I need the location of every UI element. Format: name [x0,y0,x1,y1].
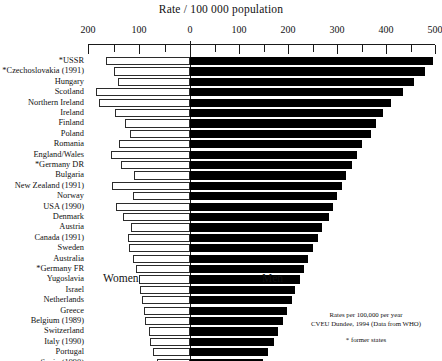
bar-women [116,203,190,211]
bar-men [190,119,376,127]
category-label: Italy (1990) [0,337,84,347]
source-note-line2: CVEU Dundee, 1994 (Data from WHO) [290,320,442,329]
category-label: England/Wales [0,150,84,160]
bar-men [190,171,346,179]
chart-row: Israel [0,285,442,295]
chart-row: Austria [0,222,442,232]
chart-row: Northern Ireland [0,98,442,108]
bar-women [150,338,190,346]
chart-row: Norway [0,191,442,201]
category-label: Ireland [0,108,84,118]
category-label: Bulgaria [0,170,84,180]
bar-men [190,203,333,211]
bars-plot-area: *USSR*Czechoslovakia (1991)HungaryScotla… [0,0,442,361]
bar-women [128,234,190,242]
chart-row: England/Wales [0,150,442,160]
chart-row: *Czechoslovakia (1991) [0,66,442,76]
category-label: *Czechoslovakia (1991) [0,66,84,76]
category-label: Norway [0,191,84,201]
bar-men [190,244,313,252]
category-label: Poland [0,129,84,139]
bar-men [190,317,283,325]
bar-men [190,88,403,96]
footnote-former-states: * former states [290,336,442,343]
bar-women [114,67,191,75]
category-label: *USSR [0,56,84,66]
bar-women [149,327,190,335]
women-series-label: Women [103,272,138,284]
bar-men [190,78,414,86]
category-label: Denmark [0,212,84,222]
bar-women [121,161,190,169]
chart-row: Denmark [0,212,442,222]
bar-women [112,182,190,190]
category-label: Portugal [0,347,84,357]
bar-women [115,109,190,117]
bar-women [131,223,190,231]
chart-row: Romania [0,139,442,149]
source-note: Rates per 100,000 per year CVEU Dundee, … [290,311,442,328]
bar-men [190,182,342,190]
bar-men [190,307,287,315]
cancer-mortality-rate-chart: Rate / 100 000 population 20010001002003… [0,0,442,361]
chart-row: Bulgaria [0,170,442,180]
category-label: Canada (1991) [0,233,84,243]
bar-women [118,78,190,86]
chart-row: Australia [0,254,442,264]
category-label: Israel [0,285,84,295]
chart-row: Netherlands [0,295,442,305]
chart-row: Spain (1990) [0,358,442,361]
category-label: Sweden [0,243,84,253]
bar-men [190,338,274,346]
bar-men [190,265,304,273]
bar-men [190,275,300,283]
chart-row: Hungary [0,77,442,87]
bar-men [190,223,322,231]
bar-men [190,327,278,335]
chart-row: Ireland [0,108,442,118]
bar-women [136,265,190,273]
bar-women [133,192,190,200]
category-label: Romania [0,139,84,149]
chart-row: Scotland [0,87,442,97]
category-label: Finland [0,118,84,128]
bar-women [119,140,190,148]
category-label: USA (1990) [0,202,84,212]
bar-women [142,296,190,304]
category-label: Greece [0,306,84,316]
chart-row: Finland [0,118,442,128]
category-label: New Zealand (1991) [0,181,84,191]
chart-row: Yugoslavia [0,274,442,284]
bar-women [129,244,190,252]
men-series-label: Men [262,272,283,284]
bar-women [153,348,190,356]
chart-row: *USSR [0,56,442,66]
bar-men [190,57,433,65]
bar-women [125,119,190,127]
bar-men [190,192,337,200]
bar-men [190,151,357,159]
category-label: *Germany FR [0,264,84,274]
category-label: Northern Ireland [0,98,84,108]
chart-row: Canada (1991) [0,233,442,243]
bar-men [190,99,391,107]
source-note-line1: Rates per 100,000 per year [290,311,442,320]
bar-men [190,161,352,169]
bar-women [130,130,190,138]
category-label: Australia [0,254,84,264]
bar-women [96,88,190,96]
bar-men [190,130,371,138]
chart-row: Portugal [0,347,442,357]
bar-women [140,286,190,294]
bar-men [190,109,383,117]
bar-men [190,213,329,221]
bar-women [133,255,190,263]
bar-men [190,255,308,263]
bar-men [190,296,292,304]
category-label: Spain (1990) [0,358,84,361]
category-label: Netherlands [0,295,84,305]
category-label: Scotland [0,87,84,97]
bar-men [190,286,295,294]
bar-women [139,275,190,283]
bar-women [99,99,190,107]
